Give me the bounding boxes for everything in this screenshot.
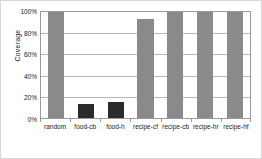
- y-axis-tick-label: 80%: [15, 29, 37, 36]
- x-axis-category-label: food-h: [100, 123, 130, 132]
- x-axis-tick-mark: [191, 119, 192, 122]
- bar-series: [41, 12, 250, 118]
- x-axis-tick-mark: [40, 119, 41, 122]
- x-axis-tick-slot: [191, 119, 221, 122]
- x-axis-category-label: recipe-cb: [161, 123, 191, 132]
- x-axis-category-label: recipe-hr: [191, 123, 221, 132]
- bar: [108, 102, 124, 118]
- x-axis-tick-slot: [100, 119, 130, 122]
- bar-slot: [41, 12, 71, 118]
- x-axis-tick-slot: [40, 119, 70, 122]
- bar-chart-figure: Coverage 0%20%40%60%80%100% randomfood-c…: [0, 0, 262, 159]
- x-axis-tick-mark: [130, 119, 131, 122]
- bar: [78, 104, 94, 118]
- x-axis-tick-mark: [221, 119, 222, 122]
- y-axis-tick-label: 40%: [15, 72, 37, 79]
- y-axis-tick-label: 20%: [15, 94, 37, 101]
- bar-slot: [190, 12, 220, 118]
- x-axis-tick-mark: [250, 119, 251, 122]
- bar-slot: [220, 12, 250, 118]
- x-axis-tick-mark: [70, 119, 71, 122]
- x-axis-tick-mark: [161, 119, 162, 122]
- bar-slot: [131, 12, 161, 118]
- x-axis-tick-slot: [221, 119, 251, 122]
- x-axis-tick-labels: randomfood-cbfood-hrecipe-cfrecipe-cbrec…: [40, 123, 251, 132]
- y-axis-tick-labels: 0%20%40%60%80%100%: [15, 11, 37, 119]
- bar: [197, 12, 213, 118]
- y-axis-tick-label: 60%: [15, 51, 37, 58]
- bar-slot: [160, 12, 190, 118]
- bar: [48, 12, 64, 118]
- plot-area: [40, 11, 251, 119]
- x-axis-category-label: recipe-hf: [221, 123, 251, 132]
- x-axis-category-label: recipe-cf: [130, 123, 160, 132]
- x-axis-category-label: food-cb: [70, 123, 100, 132]
- bar-slot: [71, 12, 101, 118]
- x-axis-tick-marks: [40, 119, 251, 122]
- y-axis-tick-label: 100%: [15, 8, 37, 15]
- bar: [167, 12, 183, 118]
- bar-slot: [101, 12, 131, 118]
- x-axis-tick-slot: [70, 119, 100, 122]
- bar: [227, 12, 243, 118]
- y-axis-tick-label: 0%: [15, 116, 37, 123]
- x-axis-category-label: random: [40, 123, 70, 132]
- x-axis-tick-slot: [161, 119, 191, 122]
- x-axis-tick-slot: [130, 119, 160, 122]
- x-axis-tick-mark: [100, 119, 101, 122]
- bar: [137, 19, 153, 118]
